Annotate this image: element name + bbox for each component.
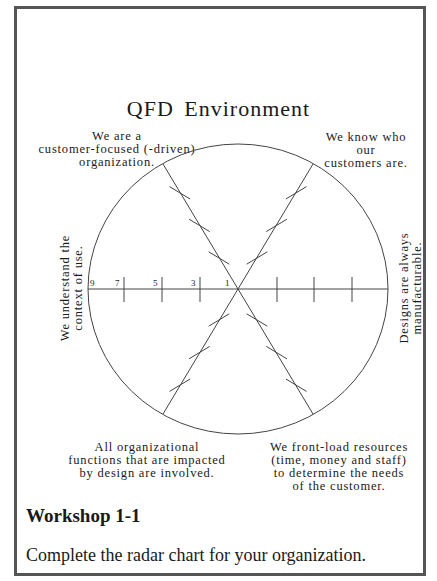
scale-labels: 9 7 5 3 1: [90, 278, 230, 288]
workshop-title: Workshop 1-1: [26, 505, 141, 527]
workshop-instruction: Complete the radar chart for your organi…: [26, 545, 366, 566]
scale-label-9: 9: [90, 278, 95, 288]
scale-label-3: 3: [191, 278, 196, 288]
scale-label-5: 5: [153, 278, 158, 288]
scale-label-7: 7: [115, 278, 120, 288]
scale-label-1: 1: [225, 278, 230, 288]
radar-chart: 9 7 5 3 1: [0, 0, 437, 581]
